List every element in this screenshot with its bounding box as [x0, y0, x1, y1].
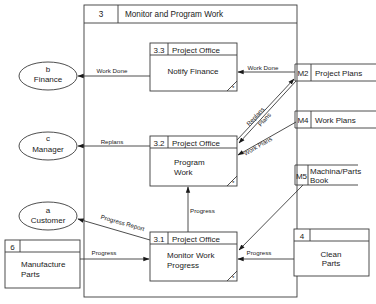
process-location: Project Office: [172, 139, 220, 148]
store-m5[interactable]: M5 Machina/Parts Book: [295, 165, 361, 185]
process-id: 3.3: [153, 46, 165, 55]
store-id: M5: [296, 172, 308, 181]
process-name-line2: Progress: [167, 261, 199, 270]
process-name-line1: Clean: [321, 250, 342, 259]
entity-id: a: [46, 206, 51, 215]
process-3-2[interactable]: 3.2 Project Office Program Work *: [150, 136, 237, 186]
process-id: 4: [300, 232, 305, 241]
process-4-clean-parts[interactable]: 4 Clean Parts: [294, 229, 369, 276]
store-name: Project Plans: [315, 69, 362, 78]
svg-text:Work Done: Work Done: [248, 64, 279, 71]
process-id: 3.1: [153, 235, 165, 244]
process-name-line1: Manufacture: [21, 260, 66, 269]
process-id: 6: [10, 243, 15, 252]
svg-text:Progress: Progress: [247, 249, 272, 256]
entity-name: Finance: [34, 75, 63, 84]
svg-text:Progress: Progress: [190, 207, 215, 214]
frame-id: 3: [99, 10, 104, 19]
process-name: Notify Finance: [167, 67, 219, 76]
process-3-1[interactable]: 3.1 Project Office Monitor Work Progress…: [150, 232, 237, 281]
store-m2[interactable]: M2 Project Plans: [295, 64, 376, 81]
entity-id: b: [46, 65, 51, 74]
entity-id: c: [46, 134, 50, 143]
process-name-line2: Work: [174, 168, 194, 177]
store-id: M2: [297, 69, 309, 78]
store-name-line1: Machina/Parts: [310, 167, 361, 176]
frame-title: Monitor and Program Work: [125, 10, 224, 19]
entity-finance[interactable]: b Finance: [19, 62, 77, 90]
process-6-manufacture-parts[interactable]: 6 Manufacture Parts: [5, 240, 80, 288]
store-name: Work Plans: [315, 116, 356, 125]
svg-text:Progress: Progress: [92, 249, 117, 256]
entity-manager[interactable]: c Manager: [19, 132, 77, 160]
process-name-line1: Program: [174, 158, 205, 167]
store-m4[interactable]: M4 Work Plans: [295, 111, 376, 128]
process-3-3[interactable]: 3.3 Project Office Notify Finance *: [150, 43, 237, 91]
entity-name: Manager: [32, 145, 64, 154]
store-id: M4: [297, 116, 309, 125]
svg-text:Work Done: Work Done: [97, 67, 128, 74]
svg-text:Replans: Replans: [101, 138, 124, 145]
process-location: Project Office: [172, 235, 220, 244]
process-name-line1: Monitor Work: [167, 251, 215, 260]
process-location: Project Office: [172, 46, 220, 55]
process-name-line2: Parts: [322, 259, 341, 268]
entity-customer[interactable]: a Customer: [19, 202, 77, 230]
process-name-line2: Parts: [21, 270, 40, 279]
entity-name: Customer: [31, 216, 66, 225]
process-id: 3.2: [153, 139, 165, 148]
data-flow-diagram: 3 Monitor and Program Work 3.3 Project O…: [0, 0, 376, 304]
store-name-line2: Book: [310, 176, 329, 185]
